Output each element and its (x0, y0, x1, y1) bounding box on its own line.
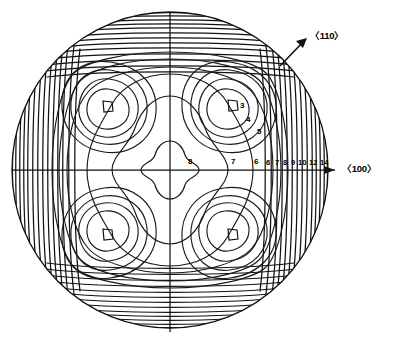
contour-label-14-outer: 14 (320, 159, 328, 167)
lobe-lower-right (182, 187, 276, 278)
contour-figure: 〈110〉 〈100〉 8 7 6 6 7 8 9 10 12 14 3 4 5 (0, 0, 395, 345)
contour-label-6-inner: 6 (254, 158, 258, 166)
x-axis-arrow-icon (324, 166, 335, 174)
lobe-label-5: 5 (257, 128, 261, 136)
lobe-upper-right (182, 61, 276, 152)
lobe-label-3: 3 (240, 102, 244, 110)
contour-label-12-outer: 12 (309, 159, 317, 167)
lobe-label-4: 4 (246, 116, 250, 124)
contour-label-7-outer: 7 (275, 159, 279, 167)
contour-plot-svg (0, 0, 395, 345)
contour-label-8: 8 (188, 158, 192, 166)
contour-label-10-outer: 10 (298, 159, 306, 167)
contour-label-6-outer: 6 (266, 159, 270, 167)
contour-label-9-outer: 9 (291, 159, 295, 167)
contour-label-7: 7 (231, 158, 235, 166)
contour-label-8-outer: 8 (283, 159, 287, 167)
direction-100-label: 〈100〉 (342, 164, 376, 174)
direction-110-label: 〈110〉 (310, 31, 344, 41)
